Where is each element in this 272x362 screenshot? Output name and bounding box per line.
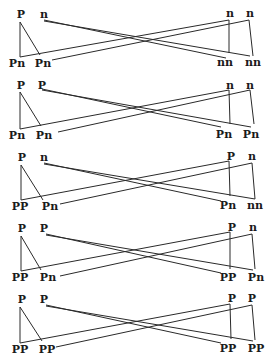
- cross-2-lines: [20, 89, 254, 132]
- cross-5-offspring-left-2: PP: [39, 344, 56, 355]
- cross-2-parent-right-allele-b: n: [246, 80, 254, 91]
- cross-3-parent-left-allele-b: n: [40, 152, 48, 163]
- cross-4-offspring-right-1: PP: [220, 272, 237, 283]
- cross-3-parent-left-allele-a: P: [18, 152, 26, 163]
- cross-2-offspring-right-1: Pn: [216, 129, 232, 140]
- cross-4-lines: [21, 232, 255, 276]
- cross-5-parent-left-allele-a: P: [18, 294, 26, 305]
- cross-3-offspring-left-1: PP: [12, 201, 29, 212]
- cross-1-offspring-left-1: Pn: [9, 58, 25, 69]
- cross-5-offspring-right-1: PP: [220, 343, 237, 354]
- cross-3-parent-right-allele-b: n: [248, 151, 256, 162]
- cross-1-parent-right-allele-b: n: [246, 8, 254, 19]
- cross-2-parent-right-allele-a: n: [226, 80, 234, 91]
- cross-1-parent-left-allele-b: n: [40, 9, 48, 20]
- cross-1-parent-left-allele-a: P: [17, 9, 25, 20]
- cross-2-offspring-left-1: Pn: [9, 130, 25, 141]
- cross-2-offspring-left-2: Pn: [36, 130, 52, 141]
- cross-4-parent-left-allele-a: P: [18, 223, 26, 234]
- cross-5-offspring-left-1: PP: [12, 344, 29, 355]
- cross-1-lines: [20, 20, 253, 60]
- cross-3-offspring-right-1: Pn: [220, 200, 236, 211]
- cross-1-offspring-left-2: Pn: [35, 58, 51, 69]
- cross-5-parent-right-allele-a: P: [228, 293, 236, 304]
- cross-3-offspring-right-2: nn: [247, 200, 263, 211]
- cross-1-parent-right-allele-a: n: [226, 8, 234, 19]
- cross-5-lines: [20, 304, 255, 347]
- cross-4-offspring-right-2: Pn: [248, 272, 264, 283]
- cross-5-parent-right-allele-b: P: [248, 293, 256, 304]
- cross-4-parent-right-allele-b: n: [249, 222, 257, 233]
- cross-5-offspring-right-2: PP: [248, 343, 265, 354]
- cross-4-parent-right-allele-a: P: [228, 222, 236, 233]
- cross-1-offspring-right-2: nn: [245, 57, 261, 68]
- cross-3-lines: [21, 161, 255, 204]
- cross-2-offspring-right-2: Pn: [243, 129, 259, 140]
- cross-4-parent-left-allele-b: P: [40, 223, 48, 234]
- cross-diagram: P n Pn Pn n n nn nn P P Pn Pn n n Pn Pn …: [0, 0, 272, 362]
- cross-5-parent-left-allele-b: P: [40, 294, 48, 305]
- cross-4-offspring-left-1: PP: [12, 272, 29, 283]
- cross-3-offspring-left-2: Pn: [42, 201, 58, 212]
- cross-4-offspring-left-2: Pn: [40, 272, 56, 283]
- cross-2-parent-left-allele-a: P: [17, 80, 25, 91]
- cross-3-parent-right-allele-a: P: [227, 151, 235, 162]
- cross-1-offspring-right-1: nn: [217, 57, 233, 68]
- connector-lines: [0, 0, 272, 362]
- cross-2-parent-left-allele-b: P: [38, 80, 46, 91]
